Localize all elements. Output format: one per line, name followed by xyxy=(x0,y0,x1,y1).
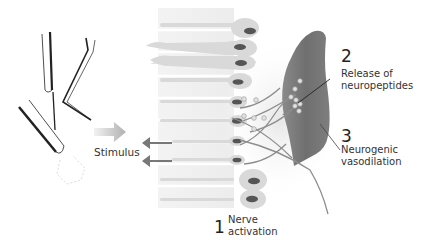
step-3-line1: Neurogenic xyxy=(341,144,402,156)
brush-probe-icon xyxy=(19,100,85,184)
step-3-line2: vasodilation xyxy=(341,156,402,168)
tuning-fork-icon xyxy=(42,32,55,130)
step-3-number: 3 xyxy=(341,128,352,145)
step-2-line1: Release of xyxy=(341,68,413,80)
step-2-number: 2 xyxy=(341,48,352,65)
bent-probe-icon xyxy=(63,38,95,120)
step-2-line2: neuropeptides xyxy=(341,80,413,92)
step-2-label: Release of neuropeptides xyxy=(341,68,413,91)
stimulus-label: Stimulus xyxy=(94,146,140,158)
step-1-label: Nerve activation xyxy=(228,214,278,237)
step-1-line1: Nerve xyxy=(228,214,278,226)
neurogenic-inflammation-diagram xyxy=(0,0,426,252)
step-1-line2: activation xyxy=(228,226,278,238)
step-3-label: Neurogenic vasodilation xyxy=(341,144,402,167)
stimulus-arrow-icon xyxy=(94,122,126,142)
step-1-number: 1 xyxy=(214,219,225,236)
nucleus xyxy=(244,28,256,34)
